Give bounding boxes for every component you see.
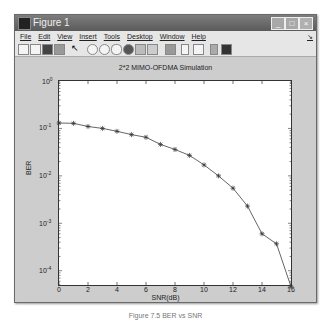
figure-caption: Figure 7.5 BER vs SNR <box>0 312 331 319</box>
figure-window: Figure 1 _ □ × File Edit View Insert Too… <box>14 14 317 303</box>
ber-curve <box>15 15 316 302</box>
